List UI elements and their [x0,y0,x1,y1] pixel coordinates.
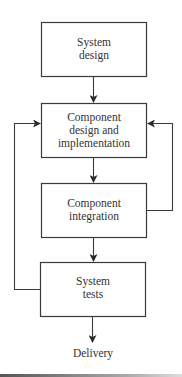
edge-feedback-left [15,124,41,290]
label-system-tests: System tests [40,275,146,301]
label-line: System [41,36,147,49]
label-line: design [41,49,147,62]
label-line: implementation [41,137,147,150]
label-component-integration: Component integration [41,197,147,223]
label-line: design and [41,124,147,137]
label-line: tests [40,288,146,301]
edge-feedback-right [147,124,173,211]
label-component-design: Component design and implementation [41,111,147,150]
label-delivery: Delivery [40,347,146,360]
label-line: Component [41,197,147,210]
label-line: System [40,275,146,288]
label-line: Component [41,111,147,124]
label-system-design: System design [41,36,147,62]
label-line: integration [41,210,147,223]
